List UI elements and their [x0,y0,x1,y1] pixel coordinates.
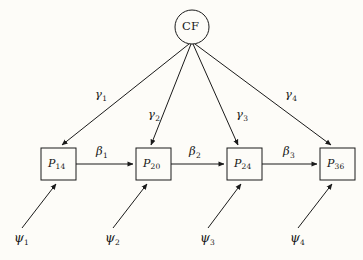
edge-gamma-2 [151,44,191,145]
observed-node-label-p24: P24 [234,158,251,169]
disturbance-label-psi-1: ψ1 [14,232,29,245]
edge-psi-3 [208,184,241,228]
disturbance-label-psi-3: ψ3 [200,232,215,245]
edge-psi-1 [22,184,56,228]
edge-label-gamma-4: γ4 [285,89,297,101]
observed-node-label-p36: P36 [327,158,344,169]
edge-label-gamma-3: γ3 [236,109,248,121]
disturbance-edges [22,184,332,228]
edge-gamma-1 [62,44,189,145]
edge-label-beta-1: β1 [96,146,107,158]
observed-node-label-p20: P20 [143,158,160,169]
edge-label-beta-3: β3 [283,146,294,158]
edge-psi-4 [298,184,332,228]
diagram-canvas [0,0,363,260]
edge-label-gamma-1: γ1 [95,89,107,101]
disturbance-label-psi-2: ψ2 [105,232,120,245]
edge-label-beta-2: β2 [189,146,200,158]
edge-psi-2 [113,184,147,228]
disturbance-label-psi-4: ψ4 [290,232,305,245]
edge-label-gamma-2: γ2 [148,109,160,121]
observed-node-label-p14: P14 [48,158,65,169]
path-diagram-figure: CF P14 P20 P24 P36 γ1 γ2 γ3 γ4 β1 β2 β3 … [0,0,363,260]
latent-node-label-cf: CF [182,21,199,33]
